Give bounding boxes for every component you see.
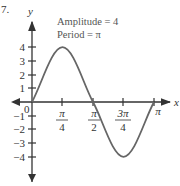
period-annotation: Period = π — [57, 29, 102, 40]
svg-text:−3: −3 — [13, 137, 25, 149]
svg-text:−2: −2 — [13, 123, 25, 135]
svg-text:π: π — [155, 105, 161, 117]
x-axis-left-arrow-icon — [11, 98, 20, 106]
svg-text:−4: −4 — [13, 151, 25, 163]
svg-text:2: 2 — [20, 69, 26, 81]
svg-text:4: 4 — [59, 121, 65, 133]
origin-label: 0 — [24, 103, 30, 115]
svg-text:4: 4 — [120, 121, 126, 133]
y-axis-label: y — [27, 5, 33, 17]
svg-text:1: 1 — [20, 82, 26, 94]
x-axis-label: x — [173, 96, 179, 108]
svg-text:3: 3 — [20, 55, 26, 67]
y-axis-down-arrow-icon — [28, 174, 36, 182]
svg-text:π: π — [59, 107, 65, 119]
svg-text:2: 2 — [91, 121, 97, 133]
svg-text:3π: 3π — [116, 107, 129, 119]
svg-text:4: 4 — [20, 41, 26, 53]
amplitude-annotation: Amplitude = 4 — [57, 16, 119, 27]
sine-graph: 7. y x 4 3 2 1 −1 −2 −3 −4 0 π 4 — [0, 0, 180, 186]
figure-label: 7. — [1, 3, 10, 15]
